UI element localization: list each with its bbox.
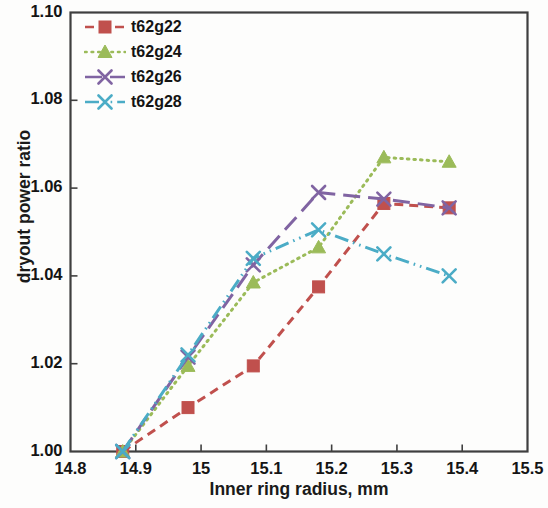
legend-swatch bbox=[84, 19, 126, 35]
legend-label: t62g28 bbox=[131, 93, 182, 111]
data-marker-x bbox=[312, 223, 325, 236]
series-t62g24 bbox=[116, 150, 456, 457]
legend-swatch bbox=[84, 69, 126, 85]
data-marker-triangle bbox=[312, 240, 326, 253]
legend-swatch bbox=[84, 44, 126, 60]
series-line bbox=[123, 230, 449, 452]
data-marker-x bbox=[99, 95, 112, 108]
data-marker-square bbox=[99, 21, 111, 33]
chart-legend: t62g22t62g24t62g26t62g28 bbox=[84, 14, 182, 114]
series-t62g26 bbox=[116, 186, 455, 458]
plot-canvas bbox=[0, 0, 548, 508]
legend-item-t62g22[interactable]: t62g22 bbox=[84, 14, 182, 39]
series-line bbox=[123, 192, 449, 451]
legend-label: t62g24 bbox=[131, 43, 182, 61]
data-marker-square bbox=[182, 402, 194, 414]
legend-label: t62g22 bbox=[131, 18, 182, 36]
data-marker-triangle bbox=[246, 275, 260, 288]
series-line bbox=[123, 203, 449, 451]
legend-item-t62g24[interactable]: t62g24 bbox=[84, 39, 182, 64]
chart-figure: dryout power ratio Inner ring radius, mm… bbox=[0, 0, 548, 508]
data-marker-square bbox=[247, 360, 259, 372]
legend-item-t62g28[interactable]: t62g28 bbox=[84, 89, 182, 114]
data-marker-triangle bbox=[442, 155, 456, 168]
data-marker-x bbox=[377, 247, 390, 260]
legend-swatch bbox=[84, 94, 126, 110]
legend-item-t62g26[interactable]: t62g26 bbox=[84, 64, 182, 89]
legend-marker bbox=[99, 95, 112, 108]
series-t62g22 bbox=[117, 197, 455, 457]
legend-marker bbox=[99, 21, 111, 33]
data-marker-square bbox=[313, 281, 325, 293]
legend-label: t62g26 bbox=[131, 68, 182, 86]
